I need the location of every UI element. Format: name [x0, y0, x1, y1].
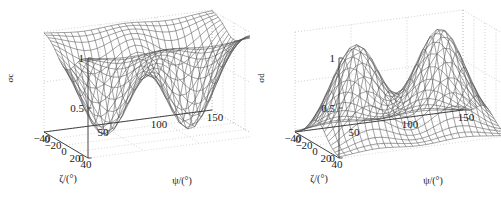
svg-text:1: 1 — [330, 52, 336, 64]
svg-text:50: 50 — [349, 126, 361, 138]
z-axis-label: σc — [5, 74, 15, 83]
svg-text:150: 150 — [458, 111, 475, 123]
svg-text:40: 40 — [332, 158, 344, 170]
svg-text:100: 100 — [402, 118, 419, 130]
svg-text:20: 20 — [321, 152, 333, 164]
sigma-c-surface-plot: 10.5040200−20−40050100150σcζ/(°)ψ/(°) — [0, 0, 250, 198]
zeta-axis-label: ζ/(°) — [310, 173, 328, 185]
svg-text:150: 150 — [207, 111, 224, 123]
psi-axis-label: ψ/(°) — [172, 175, 192, 187]
svg-text:0: 0 — [312, 145, 318, 157]
right-plot: 10.5040200−20−40050100150σdζ/(°)ψ/(°) — [251, 0, 501, 198]
z-axis-label: σd — [256, 73, 266, 83]
svg-text:1: 1 — [79, 52, 85, 64]
zeta-axis-label: ζ/(°) — [59, 173, 77, 185]
sigma-d-surface-plot: 10.5040200−20−40050100150σdζ/(°)ψ/(°) — [251, 0, 501, 198]
figure-root: 10.5040200−20−40050100150σcζ/(°)ψ/(°) 10… — [0, 0, 501, 198]
svg-text:0: 0 — [295, 133, 301, 145]
svg-text:20: 20 — [70, 152, 82, 164]
svg-text:0: 0 — [44, 133, 50, 145]
psi-axis-label: ψ/(°) — [423, 175, 443, 187]
svg-text:0.5: 0.5 — [321, 102, 335, 114]
svg-text:0: 0 — [61, 145, 67, 157]
svg-text:100: 100 — [151, 118, 168, 130]
svg-text:40: 40 — [81, 158, 93, 170]
svg-text:50: 50 — [98, 126, 110, 138]
left-plot: 10.5040200−20−40050100150σcζ/(°)ψ/(°) — [0, 0, 250, 198]
svg-text:0.5: 0.5 — [70, 102, 84, 114]
